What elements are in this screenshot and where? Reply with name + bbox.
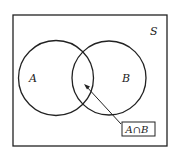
intersection-arrow: [86, 86, 121, 124]
universe-label: S: [150, 25, 158, 38]
intersection-label: A∩B: [125, 124, 149, 135]
venn-diagram: S A B A∩B: [0, 0, 179, 155]
set-b-label: B: [121, 72, 130, 85]
set-a-label: A: [28, 72, 37, 85]
set-b-circle: [72, 41, 146, 115]
